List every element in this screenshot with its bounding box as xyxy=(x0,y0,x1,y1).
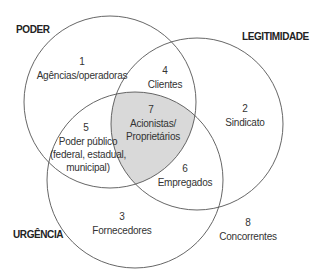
svg-text:4: 4 xyxy=(162,65,168,76)
title-poder: PODER xyxy=(16,24,51,35)
svg-text:Agências/operadoras: Agências/operadoras xyxy=(37,70,128,81)
svg-text:Clientes: Clientes xyxy=(148,79,183,90)
svg-text:Sindicato: Sindicato xyxy=(225,117,265,128)
svg-text:municipal): municipal) xyxy=(66,162,110,173)
svg-text:8: 8 xyxy=(245,217,251,228)
region-3: 3 Fornecedores xyxy=(92,211,151,236)
svg-text:(federal, estadual,: (federal, estadual, xyxy=(50,149,126,160)
title-legitimidade: LEGITIMIDADE xyxy=(242,31,310,42)
title-urgencia: URGÊNCIA xyxy=(13,228,63,240)
svg-text:6: 6 xyxy=(182,163,188,174)
svg-text:2: 2 xyxy=(242,103,248,114)
svg-text:7: 7 xyxy=(148,104,154,115)
svg-text:Proprietários: Proprietários xyxy=(126,131,180,142)
svg-text:Empregados: Empregados xyxy=(158,177,213,188)
stakeholder-venn-diagram: PODER LEGITIMIDADE URGÊNCIA 1 Agências/o… xyxy=(0,0,314,272)
region-1: 1 Agências/operadoras xyxy=(37,56,128,81)
svg-text:1: 1 xyxy=(79,56,85,67)
region-2: 2 Sindicato xyxy=(225,103,265,128)
svg-text:Acionistas/: Acionistas/ xyxy=(130,118,177,129)
region-8: 8 Concorrentes xyxy=(219,217,277,242)
svg-text:3: 3 xyxy=(119,211,125,222)
svg-text:Fornecedores: Fornecedores xyxy=(92,225,151,236)
svg-text:Poder público: Poder público xyxy=(59,136,118,147)
svg-text:5: 5 xyxy=(83,122,89,133)
region-4: 4 Clientes xyxy=(148,65,183,90)
svg-text:Concorrentes: Concorrentes xyxy=(219,231,277,242)
